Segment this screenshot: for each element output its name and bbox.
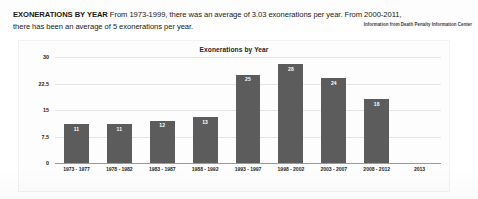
bar[interactable]: 25 — [236, 75, 261, 163]
bar[interactable]: 28 — [278, 64, 303, 163]
bar-value-label: 11 — [117, 127, 123, 132]
article-headline-block: EXONERATIONS BY YEAR From 1973-1999, the… — [13, 9, 465, 32]
bar-value-label: 12 — [159, 123, 165, 128]
bar[interactable]: 13 — [193, 117, 218, 163]
bar-slot: 18 — [355, 57, 398, 163]
x-axis-tick: 2008 - 2012 — [355, 166, 398, 172]
chart-card: Exonerations by Year 07.51522.530 111112… — [19, 41, 449, 191]
headline-kicker: EXONERATIONS BY YEAR — [13, 10, 108, 19]
y-axis-tick: 30 — [43, 54, 49, 60]
x-axis-tick: 2003 - 2007 — [312, 166, 355, 172]
headline-line-one: EXONERATIONS BY YEAR From 1973-1999, the… — [13, 9, 465, 21]
bar-value-label: 18 — [374, 102, 380, 107]
y-axis-tick: 7.5 — [42, 134, 50, 140]
x-axis-tick: 1993 - 1997 — [227, 166, 270, 172]
y-axis-tick: 15 — [43, 107, 49, 113]
bar-value-label: 11 — [74, 127, 80, 132]
bar-slot — [398, 57, 441, 163]
x-axis-tick: 1983 - 1987 — [141, 166, 184, 172]
chart-title: Exonerations by Year — [19, 46, 449, 53]
bar-slot: 11 — [55, 57, 98, 163]
x-axis-tick: 2013 — [398, 166, 441, 172]
y-axis-tick: 0 — [46, 160, 49, 166]
headline-body-first-line: From 1973-1999, there was an average of … — [110, 10, 402, 19]
x-axis-tick-labels: 1973 - 19771978 - 19821983 - 19871988 - … — [55, 166, 441, 172]
chart-plot-area: 1111121325282418 — [55, 57, 441, 163]
y-axis-tick: 22.5 — [39, 81, 50, 87]
source-credit: Information from Death Penalty Informati… — [364, 22, 472, 27]
bar-slot: 28 — [269, 57, 312, 163]
chart-plot-wrapper: 07.51522.530 1111121325282418 1973 - 197… — [19, 57, 449, 191]
bar-value-label: 28 — [288, 67, 294, 72]
bar[interactable]: 11 — [64, 124, 89, 163]
bar-value-label: 13 — [202, 120, 208, 125]
bar-value-label: 25 — [245, 77, 251, 82]
bar[interactable]: 12 — [150, 121, 175, 163]
x-axis-tick: 1978 - 1982 — [98, 166, 141, 172]
bar-slot: 12 — [141, 57, 184, 163]
bar[interactable]: 18 — [364, 99, 389, 163]
x-axis-tick: 1988 - 1992 — [184, 166, 227, 172]
x-axis-tick: 1973 - 1977 — [55, 166, 98, 172]
bar[interactable]: 11 — [107, 124, 132, 163]
bar-slot: 13 — [184, 57, 227, 163]
x-axis-tick: 1998 - 2002 — [269, 166, 312, 172]
bar-series: 1111121325282418 — [55, 57, 441, 163]
bar-value-label: 24 — [331, 81, 337, 86]
bar[interactable]: 24 — [321, 78, 346, 163]
bar-slot: 11 — [98, 57, 141, 163]
bar-slot: 25 — [227, 57, 270, 163]
bar-slot: 24 — [312, 57, 355, 163]
axis-baseline — [55, 163, 441, 164]
y-axis-tick-labels: 07.51522.530 — [19, 57, 53, 163]
